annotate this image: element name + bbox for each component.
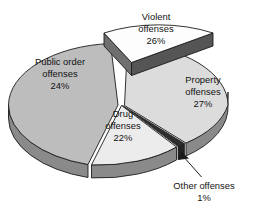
drug-label-line1: Drug: [113, 108, 133, 119]
property-label-pct: 27%: [194, 98, 213, 109]
other-offenses-callout: Other offenses 1%: [173, 152, 235, 204]
pie-chart-svg: Violent offenses 26% Property offenses 2…: [0, 0, 257, 209]
property-label-line1: Property: [185, 74, 221, 85]
property-label-line2: offenses: [185, 86, 221, 97]
drug-label-pct: 22%: [114, 132, 133, 143]
other-label-line1: Other offenses: [173, 180, 235, 191]
public-order-label-pct: 24%: [51, 80, 70, 91]
violent-label-line2: offenses: [138, 23, 174, 34]
pie-chart-figure: Violent offenses 26% Property offenses 2…: [0, 0, 257, 209]
violent-label-pct: 26%: [147, 35, 166, 46]
public-order-label-line1: Public order: [35, 56, 85, 67]
violent-label-line1: Violent: [142, 11, 171, 22]
drug-label-line2: offenses: [105, 120, 141, 131]
public-order-label-line2: offenses: [42, 68, 78, 79]
other-label-pct: 1%: [197, 192, 211, 203]
